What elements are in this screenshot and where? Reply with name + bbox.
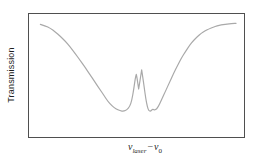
zero-subscript: 0 (159, 147, 163, 155)
transmission-curve (29, 14, 244, 137)
y-axis-label: Transmission (6, 47, 16, 103)
plot-frame (28, 13, 245, 138)
spectroscopy-figure: Transmission νlaser−ν0 (0, 0, 256, 164)
minus-sign: − (146, 141, 154, 152)
x-axis-label: νlaser−ν0 (128, 141, 162, 155)
laser-subscript: laser (132, 147, 146, 155)
transmission-curve-path (40, 23, 236, 111)
